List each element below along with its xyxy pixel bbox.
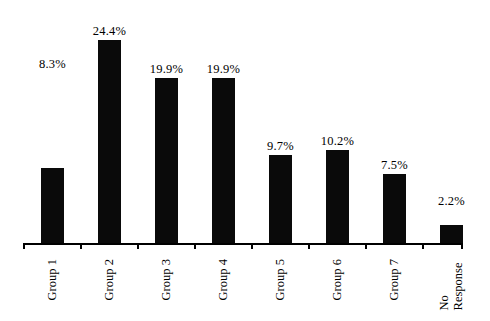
x-axis-category-label-text: Group 5 [274, 259, 288, 300]
bar-value-label: 9.7% [252, 140, 309, 153]
bar-chart: 8.3% Group 1 24.4% Group 2 19.9% [0, 0, 490, 321]
bar-group-group-6: 10.2% Group 6 [309, 0, 366, 321]
x-axis-category-label: Group 2 [81, 251, 138, 313]
x-axis-category-label: Group 1 [24, 251, 81, 313]
bar-group-group-4: 19.9% Group 4 [195, 0, 252, 321]
x-axis-category-label-text: Group 1 [46, 259, 60, 300]
bar [383, 174, 406, 243]
x-axis-category-label-text: Group 3 [160, 259, 174, 300]
x-axis-category-label: Group 4 [195, 251, 252, 313]
bar-value-label: 19.9% [195, 63, 252, 76]
x-axis-tick [137, 243, 139, 249]
x-axis-category-label: Group 7 [366, 251, 423, 313]
x-axis-tick [422, 243, 424, 249]
x-axis-category-label: Group 5 [252, 251, 309, 313]
bar-value-label: 10.2% [309, 135, 366, 148]
bar [326, 150, 349, 243]
bar-group-group-5: 9.7% Group 5 [252, 0, 309, 321]
x-axis-category-label: Group 6 [309, 251, 366, 313]
x-axis-category-label: No Response [423, 251, 480, 313]
x-axis-tick [194, 243, 196, 249]
plot-area: 8.3% Group 1 24.4% Group 2 19.9% [0, 0, 490, 321]
bar [212, 78, 235, 243]
bar [269, 155, 292, 243]
bar-value-label: 8.3% [24, 58, 81, 71]
bar [41, 168, 64, 243]
x-axis-tick [251, 243, 253, 249]
x-axis-category-label-text: Group 2 [103, 259, 117, 300]
bar-group-group-7: 7.5% Group 7 [366, 0, 423, 321]
x-axis-line [23, 243, 462, 245]
x-axis-category-label: Group 3 [138, 251, 195, 313]
x-axis-category-label-text: No Response [438, 263, 465, 311]
x-axis-tick [308, 243, 310, 249]
x-axis-tick [23, 243, 25, 249]
bar-value-label: 24.4% [81, 25, 138, 38]
bar [155, 78, 178, 243]
bar-group-no-response: 2.2% No Response [423, 0, 480, 321]
bar [98, 40, 121, 243]
bar-value-label: 2.2% [423, 195, 480, 208]
bar-value-label: 7.5% [366, 159, 423, 172]
x-axis-category-label-text: Group 7 [388, 259, 402, 300]
x-axis-category-label-text: Group 4 [217, 259, 231, 300]
bar-group-group-3: 19.9% Group 3 [138, 0, 195, 321]
x-axis-tick [80, 243, 82, 249]
bar [440, 225, 463, 243]
bar-group-group-2: 24.4% Group 2 [81, 0, 138, 321]
bar-group-group-1: 8.3% Group 1 [24, 0, 81, 321]
bar-value-label: 19.9% [138, 63, 195, 76]
x-axis-tick [365, 243, 367, 249]
x-axis-category-label-text: Group 6 [331, 259, 345, 300]
x-axis-tick [461, 243, 463, 249]
